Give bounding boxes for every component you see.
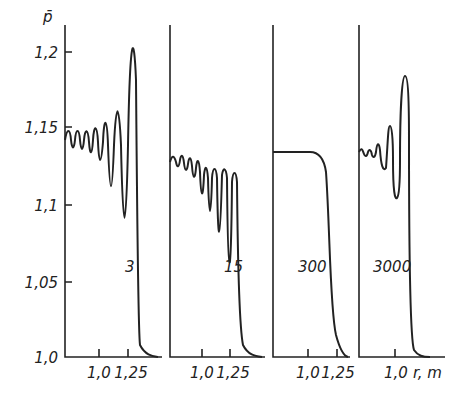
multi-panel-chart: p̄ 1,2 1,15 1,1 1,05 1,0 3 1,0 1,25 15 1… bbox=[0, 0, 457, 411]
panel-3-axes bbox=[273, 25, 350, 357]
panel-2: 15 1,0 1,25 bbox=[170, 25, 265, 382]
y-tick-label: 1,0 bbox=[34, 349, 58, 367]
panel-1-axes bbox=[65, 25, 162, 357]
curve-label-300: 300 bbox=[298, 258, 327, 276]
x-ticks bbox=[202, 349, 230, 357]
y-tick-label: 1,05 bbox=[25, 274, 58, 292]
curve-15 bbox=[170, 156, 262, 357]
panel-1: 3 1,0 1,25 bbox=[65, 25, 162, 382]
curve-3 bbox=[65, 48, 158, 357]
x-ticks bbox=[99, 349, 128, 357]
curve-label-15: 15 bbox=[224, 258, 243, 276]
curve-300 bbox=[273, 152, 348, 357]
x-axis-label: r, m bbox=[413, 364, 442, 382]
y-axis-label: p̄ bbox=[42, 8, 53, 26]
x-ticks bbox=[308, 349, 337, 357]
x-tick-label: 1,0 bbox=[384, 364, 408, 382]
panel-4-axes bbox=[359, 25, 445, 357]
curve-label-3: 3 bbox=[125, 258, 135, 276]
y-tick-label: 1,1 bbox=[34, 197, 58, 215]
y-tick-label: 1,15 bbox=[25, 119, 58, 137]
y-tick-label: 1,2 bbox=[34, 44, 58, 62]
x-tick-label: 1,0 bbox=[296, 364, 320, 382]
x-tick-label: 1,25 bbox=[321, 364, 354, 382]
y-ticks bbox=[65, 52, 72, 282]
curve-3000 bbox=[359, 76, 430, 357]
panel-4: 3000 1,0 r, m bbox=[359, 25, 445, 382]
x-tick-label: 1,25 bbox=[114, 364, 147, 382]
x-tick-label: 1,0 bbox=[190, 364, 214, 382]
curve-label-3000: 3000 bbox=[373, 258, 411, 276]
panel-3: 300 1,0 1,25 bbox=[273, 25, 355, 382]
x-tick-label: 1,25 bbox=[216, 364, 249, 382]
x-tick-label: 1,0 bbox=[87, 364, 111, 382]
